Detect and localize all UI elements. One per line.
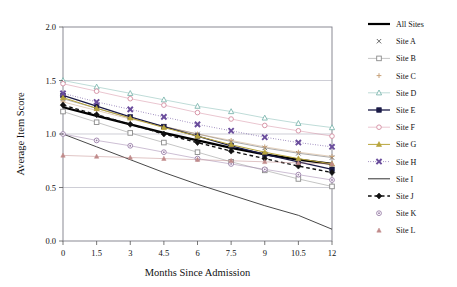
legend-item-site-f[interactable]: Site F bbox=[364, 120, 450, 134]
legend-label: All Sites bbox=[396, 20, 424, 29]
legend-label: Site L bbox=[396, 226, 415, 235]
data-point-marker bbox=[128, 107, 133, 112]
legend-item-all-sites[interactable]: All Sites bbox=[364, 17, 450, 31]
data-point-marker bbox=[162, 156, 166, 160]
data-point-marker bbox=[377, 56, 382, 61]
data-point-marker bbox=[128, 131, 133, 136]
series-line bbox=[63, 134, 332, 229]
line-chart: 0.00.51.01.52.001.534.567.5910.512Months… bbox=[0, 0, 457, 287]
legend-label: Site J bbox=[396, 192, 414, 201]
legend-label: Site I bbox=[396, 175, 413, 184]
data-point-marker bbox=[128, 96, 133, 101]
x-tick-label: 9 bbox=[263, 248, 267, 258]
data-point-marker bbox=[61, 109, 66, 114]
data-point-marker bbox=[94, 154, 98, 158]
data-point-marker bbox=[229, 117, 234, 122]
legend-item-site-a[interactable]: Site A bbox=[364, 34, 450, 48]
legend-label: Site K bbox=[396, 209, 416, 218]
data-point-marker bbox=[262, 135, 267, 140]
x-tick-label: 1.5 bbox=[91, 248, 102, 258]
legend-item-site-l[interactable]: Site L bbox=[364, 223, 450, 237]
data-point-marker bbox=[129, 145, 131, 147]
data-point-marker bbox=[94, 120, 99, 125]
x-tick-label: 0 bbox=[61, 248, 65, 258]
legend: All SitesSite ASite BSite CSite DSite ES… bbox=[364, 17, 450, 237]
legend-item-site-b[interactable]: Site B bbox=[364, 51, 450, 65]
x-tick-label: 12 bbox=[328, 248, 337, 258]
legend-label: Site E bbox=[396, 106, 415, 115]
series-line bbox=[63, 93, 332, 147]
data-point-marker bbox=[61, 81, 66, 86]
y-axis-title: Average Item Score bbox=[15, 92, 26, 176]
legend-label: Site H bbox=[396, 158, 416, 167]
y-tick-label: 0.0 bbox=[45, 236, 56, 246]
data-point-marker bbox=[296, 150, 301, 155]
series-group bbox=[60, 78, 335, 230]
x-tick-label: 10.5 bbox=[291, 248, 306, 258]
data-point-marker bbox=[262, 144, 267, 149]
y-tick-label: 1.0 bbox=[45, 129, 56, 139]
legend-item-site-d[interactable]: Site D bbox=[364, 86, 450, 100]
legend-item-site-k[interactable]: Site K bbox=[364, 206, 450, 220]
data-point-marker bbox=[331, 179, 333, 181]
legend-item-site-h[interactable]: Site H bbox=[364, 155, 450, 169]
y-tick-label: 2.0 bbox=[45, 22, 56, 32]
legend-label: Site D bbox=[396, 89, 416, 98]
legend-label: Site C bbox=[396, 72, 416, 81]
data-point-marker bbox=[377, 125, 382, 130]
x-axis-title: Months Since Admission bbox=[145, 267, 251, 278]
data-point-marker bbox=[297, 174, 299, 176]
data-point-marker bbox=[162, 103, 167, 108]
chart-container: 0.00.51.01.52.001.534.567.5910.512Months… bbox=[0, 0, 457, 287]
data-point-marker bbox=[378, 212, 380, 214]
legend-item-site-g[interactable]: Site G bbox=[364, 137, 450, 151]
x-tick-label: 7.5 bbox=[226, 248, 237, 258]
legend-label: Site B bbox=[396, 54, 416, 63]
data-point-marker bbox=[264, 168, 266, 170]
legend-item-site-e[interactable]: Site E bbox=[364, 103, 450, 117]
data-point-marker bbox=[128, 155, 132, 159]
y-tick-label: 0.5 bbox=[45, 183, 56, 193]
x-tick-label: 6 bbox=[195, 248, 199, 258]
data-point-marker bbox=[230, 163, 232, 165]
data-point-marker bbox=[330, 184, 335, 189]
data-point-marker bbox=[61, 153, 65, 157]
legend-label: Site F bbox=[396, 123, 415, 132]
data-point-marker bbox=[296, 128, 301, 133]
legend-label: Site A bbox=[396, 37, 416, 46]
series-site-d bbox=[60, 78, 334, 130]
data-point-marker bbox=[162, 140, 167, 145]
legend-label: Site G bbox=[396, 140, 416, 149]
data-point-marker bbox=[330, 134, 335, 139]
data-point-marker bbox=[163, 151, 165, 153]
series-site-i bbox=[63, 134, 332, 229]
data-point-marker bbox=[377, 108, 382, 113]
data-point-marker bbox=[127, 121, 133, 127]
data-point-marker bbox=[296, 140, 301, 145]
legend-item-site-i[interactable]: Site I bbox=[364, 172, 450, 186]
data-point-marker bbox=[195, 110, 200, 115]
data-point-marker bbox=[262, 123, 267, 128]
legend-item-site-j[interactable]: Site J bbox=[364, 189, 450, 203]
data-point-marker bbox=[195, 122, 200, 127]
y-tick-label: 1.5 bbox=[45, 76, 56, 86]
data-point-marker bbox=[195, 150, 200, 155]
data-point-marker bbox=[96, 140, 98, 142]
legend-item-site-c[interactable]: Site C bbox=[364, 69, 450, 83]
x-tick-label: 3 bbox=[128, 248, 132, 258]
data-point-marker bbox=[330, 154, 335, 159]
x-tick-label: 4.5 bbox=[159, 248, 170, 258]
data-point-marker bbox=[94, 89, 99, 94]
